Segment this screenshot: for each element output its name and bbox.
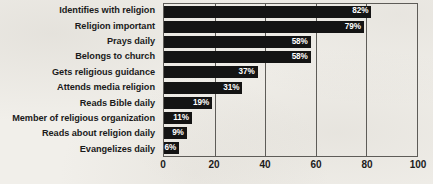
bar-row: 58% [164,50,417,65]
bar-value-label: 58% [292,53,308,61]
bar-row: 11% [164,110,417,125]
bar-value-label: 82% [352,7,368,15]
category-label: Prays daily [0,34,159,49]
bar: 79% [164,21,364,33]
bar: 82% [164,6,371,18]
bar-series: 82% 79% 58% 58% 37% [164,4,417,156]
category-label: Member of religious organization [0,111,159,126]
bar-value-label: 11% [173,114,189,122]
bar: 11% [164,112,192,124]
bar-chart: Identifies with religion Religion import… [0,0,433,184]
bar-row: 19% [164,95,417,110]
category-label: Religion important [0,18,159,33]
category-label: Reads about religion daily [0,126,159,141]
bar-value-label: 6% [165,144,177,152]
bar-row: 31% [164,80,417,95]
category-label: Identifies with religion [0,3,159,18]
x-axis-tick-label: 100 [410,160,427,170]
bar-row: 37% [164,65,417,80]
plot-area: 82% 79% 58% 58% 37% [163,3,418,157]
category-label: Reads Bible daily [0,95,159,110]
x-axis-tick-label: 40 [259,160,270,170]
bar: 9% [164,127,187,139]
x-axis-tick-label: 60 [310,160,321,170]
bar-row: 6% [164,141,417,156]
bar: 31% [164,82,242,94]
category-label: Attends media religion [0,80,159,95]
bar-value-label: 19% [193,99,209,107]
category-label: Belongs to church [0,49,159,64]
x-axis-tick-label: 80 [361,160,372,170]
x-axis-tick-label: 0 [160,160,166,170]
bar-value-label: 9% [172,129,184,137]
x-axis-tick-label: 20 [208,160,219,170]
bar-value-label: 58% [292,38,308,46]
bar-value-label: 31% [223,84,239,92]
bar: 19% [164,97,212,109]
category-label-axis: Identifies with religion Religion import… [0,3,159,157]
bar: 58% [164,51,311,63]
category-label: Evangelizes daily [0,142,159,157]
bar-row: 79% [164,19,417,34]
bar-value-label: 37% [239,68,255,76]
bar-row: 58% [164,34,417,49]
category-label: Gets religious guidance [0,65,159,80]
bar-value-label: 79% [345,23,361,31]
bar-row: 9% [164,126,417,141]
bar-row: 82% [164,4,417,19]
bar: 37% [164,66,258,78]
x-axis: 020406080100 [163,160,418,176]
bar: 58% [164,36,311,48]
bar: 6% [164,142,179,154]
